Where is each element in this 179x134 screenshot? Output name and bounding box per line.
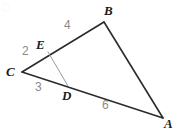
vertex-label-C: C bbox=[6, 65, 15, 78]
edge-BA bbox=[104, 22, 163, 118]
length-label-EB: 4 bbox=[64, 19, 71, 31]
length-label-DA: 6 bbox=[102, 99, 109, 111]
length-label-CE: 2 bbox=[22, 45, 29, 57]
triangle-svg bbox=[0, 0, 179, 134]
vertex-label-D: D bbox=[62, 89, 71, 102]
edge-CB bbox=[22, 22, 104, 72]
length-label-CD: 3 bbox=[35, 81, 42, 93]
edge-CA bbox=[22, 72, 163, 118]
geometry-figure: B E C D A 4 2 3 6 bbox=[0, 0, 179, 134]
vertex-label-A: A bbox=[164, 117, 173, 130]
vertex-label-E: E bbox=[36, 38, 45, 51]
vertex-label-B: B bbox=[104, 4, 113, 17]
